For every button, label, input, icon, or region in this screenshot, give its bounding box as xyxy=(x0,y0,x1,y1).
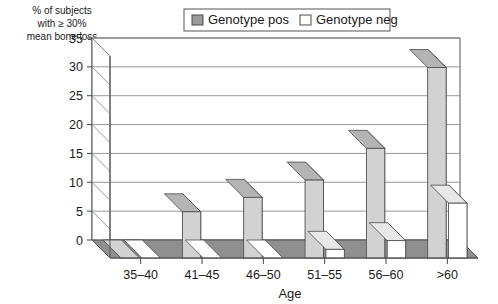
x-axis-title: Age xyxy=(278,286,301,301)
grouped-bar-chart: % of subjects with ≥ 30% mean bone loss … xyxy=(0,0,498,304)
y-axis-label: % of subjects with ≥ 30% mean bone loss xyxy=(27,5,98,42)
y-tick-label: 0 xyxy=(76,234,83,248)
legend: Genotype pos Genotype neg xyxy=(184,9,398,31)
y-tick-label: 35 xyxy=(69,32,83,46)
legend-swatch-genotype-pos xyxy=(192,15,203,25)
chart-figure: % of subjects with ≥ 30% mean bone loss … xyxy=(0,0,498,304)
y-tick-label: 20 xyxy=(69,118,83,132)
x-tick-label: 46–50 xyxy=(246,268,281,282)
bar-front-face xyxy=(366,148,384,258)
plot-left-wall xyxy=(92,38,110,258)
x-tick-label: >60 xyxy=(437,268,458,282)
legend-label-genotype-neg: Genotype neg xyxy=(316,12,398,27)
x-axis-ticks: 35–4041–4546–5051–5556–60>60 xyxy=(123,268,458,282)
bar-front-face xyxy=(449,203,467,258)
y-tick-label: 30 xyxy=(69,60,83,74)
y-tick-label: 10 xyxy=(69,176,83,190)
y-axis-label-line3: mean bone loss xyxy=(27,31,98,42)
bar-front-face xyxy=(326,249,344,258)
legend-label-genotype-pos: Genotype pos xyxy=(208,12,289,27)
bar-front-face xyxy=(387,241,405,258)
bar-front-face xyxy=(305,180,323,258)
y-tick-label: 15 xyxy=(69,147,83,161)
legend-swatch-genotype-neg xyxy=(300,15,311,25)
x-tick-label: 41–45 xyxy=(185,268,220,282)
x-tick-label: 56–60 xyxy=(369,268,404,282)
x-tick-label: 51–55 xyxy=(307,268,342,282)
plot-area xyxy=(87,38,478,264)
plot-back-wall xyxy=(92,38,460,240)
y-tick-label: 5 xyxy=(76,205,83,219)
y-axis-label-line1: % of subjects xyxy=(32,5,91,16)
x-tick-label: 35–40 xyxy=(123,268,158,282)
bar-front-face xyxy=(428,68,446,258)
y-axis-ticks: 05101520253035 xyxy=(69,32,83,248)
y-axis-label-line2: with ≥ 30% xyxy=(37,18,87,29)
y-tick-label: 25 xyxy=(69,89,83,103)
